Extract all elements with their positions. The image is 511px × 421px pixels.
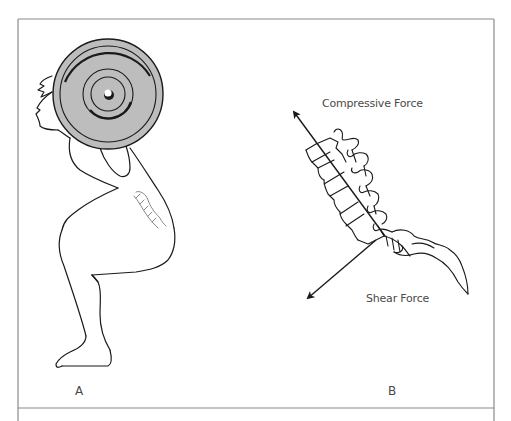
figure: Compressive Force Shear Force A B	[0, 0, 511, 421]
force-arrows	[294, 112, 385, 298]
figure-illustration	[0, 0, 511, 421]
lumbar-spine	[306, 129, 468, 294]
panel-label-a: A	[75, 384, 83, 398]
shear-force-label: Shear Force	[366, 292, 429, 305]
barbell-plate	[53, 39, 163, 149]
lumbar-spine-sketch	[134, 191, 166, 228]
shear-force-arrow	[308, 240, 376, 298]
compressive-force-label: Compressive Force	[322, 97, 423, 110]
panel-label-b: B	[388, 384, 396, 398]
compressive-force-arrow	[294, 112, 385, 236]
